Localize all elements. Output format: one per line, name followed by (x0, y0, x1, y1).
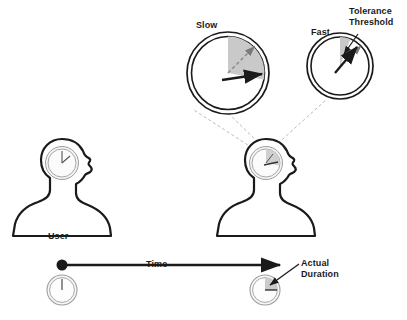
zoom-guide-fast (274, 99, 327, 147)
timeline (57, 260, 281, 271)
label-tolerance-line2: Threshold (349, 17, 405, 28)
slow-tolerance-wedge (228, 36, 265, 79)
magnified-clock-slow (187, 32, 269, 114)
label-time: Time (146, 259, 167, 270)
timeline-end-clock (250, 264, 299, 305)
label-tolerance-threshold: Tolerance Threshold (349, 6, 405, 28)
label-tolerance-line1: Tolerance (349, 6, 405, 17)
label-actual-duration-line2: Duration (301, 269, 353, 280)
label-actual-duration-line1: Actual (301, 258, 353, 269)
diagram-canvas: Slow Fast Tolerance Threshold User Time … (0, 0, 407, 320)
person-left (13, 139, 111, 236)
person-right (217, 139, 315, 236)
timeline-start-clock (47, 275, 77, 305)
timeline-start-dot (57, 260, 68, 271)
label-user: User (48, 231, 68, 242)
label-fast: Fast (311, 27, 330, 38)
label-actual-duration: Actual Duration (301, 258, 353, 280)
magnified-clock-fast (307, 33, 373, 99)
label-slow: Slow (196, 20, 217, 31)
zoom-guide-slow-left (194, 110, 257, 151)
actual-duration-arrow (270, 264, 299, 285)
